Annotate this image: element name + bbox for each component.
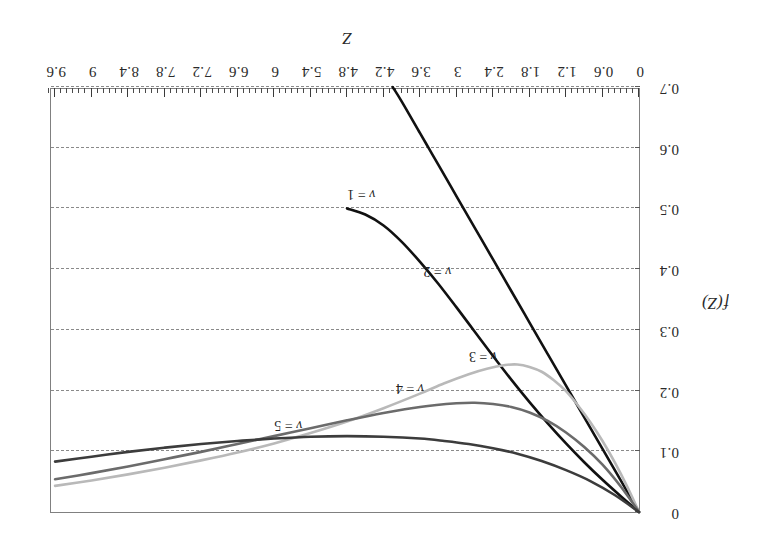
x-tick-label: 0 — [636, 63, 644, 80]
x-tick-label: 4.2 — [375, 63, 395, 80]
x-tick-label: 9.6 — [46, 63, 66, 80]
y-tick-label: 0.4 — [659, 262, 679, 279]
y-tick-label: 0.3 — [659, 322, 679, 339]
y-axis-title: f (Z) — [702, 293, 729, 313]
x-tick-label: 6.6 — [229, 63, 249, 80]
x-tick-label: 4.8 — [338, 63, 358, 80]
x-tick-label: 0.6 — [594, 63, 614, 80]
x-tick-label: 7.8 — [156, 63, 176, 80]
x-tick-label: 8.4 — [119, 63, 139, 80]
curve-label: v = 1 — [347, 186, 375, 202]
y-tick-label: 0.2 — [659, 383, 679, 400]
x-tick-label: 1.8 — [521, 63, 541, 80]
data-curves — [49, 87, 639, 512]
curve-v5 — [55, 436, 639, 512]
x-tick-label: 3 — [454, 63, 462, 80]
rotated-figure-wrapper: Z f (Z) 00.61.21.82.433.64.24.85.466.67.… — [0, 0, 765, 548]
x-tick-label: 9 — [89, 63, 97, 80]
x-tick-label: 6 — [271, 63, 279, 80]
x-tick-label: 5.4 — [302, 63, 322, 80]
plot-area — [50, 88, 640, 513]
x-tick-label: 2.4 — [484, 63, 504, 80]
y-tick-label: 0.5 — [659, 201, 679, 218]
chart-figure: Z f (Z) 00.61.21.82.433.64.24.85.466.67.… — [0, 0, 765, 548]
y-tick-label: 0.1 — [659, 444, 679, 461]
y-tick-label: 0.7 — [659, 80, 679, 97]
x-axis-title: Z — [343, 28, 352, 48]
curve-label: v = 4 — [396, 380, 424, 396]
x-tick-label: 1.2 — [557, 63, 577, 80]
y-tick-label: 0.6 — [659, 140, 679, 157]
x-tick-label: 7.2 — [192, 63, 212, 80]
curve-label: v = 3 — [469, 348, 497, 364]
y-tick-label: 0 — [671, 505, 679, 522]
curve-label: v = 5 — [274, 417, 302, 433]
x-tick-label: 3.6 — [411, 63, 431, 80]
curve-v1 — [393, 87, 639, 512]
curve-v3 — [55, 364, 639, 512]
curve-v4 — [55, 403, 639, 512]
curve-label: v = 2 — [423, 263, 451, 279]
